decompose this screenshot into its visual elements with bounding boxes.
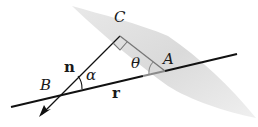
label-c: C	[114, 8, 126, 26]
label-alpha: α	[86, 66, 96, 84]
label-r: r	[112, 84, 121, 102]
line-r	[11, 76, 143, 107]
label-theta: θ	[131, 54, 140, 72]
geometry-diagram: C A B n r α θ	[0, 0, 258, 127]
normal-n-line-lower	[42, 48, 108, 114]
label-n: n	[64, 58, 75, 76]
label-a: A	[161, 50, 174, 68]
label-b: B	[39, 76, 51, 94]
